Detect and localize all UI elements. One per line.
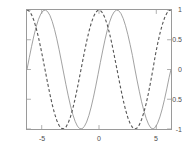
x-tick-label-5: 5 xyxy=(144,135,168,142)
series-line-sin(x) xyxy=(27,10,171,129)
chart-svg xyxy=(27,10,171,129)
figure-container: 1 0.5 0 -0.5 -1 -5 0 5 xyxy=(0,0,182,151)
x-tick-label-neg5: -5 xyxy=(30,135,54,142)
plot-area xyxy=(26,9,172,130)
data-series-group xyxy=(27,10,171,129)
x-tick-label-0: 0 xyxy=(87,135,111,142)
